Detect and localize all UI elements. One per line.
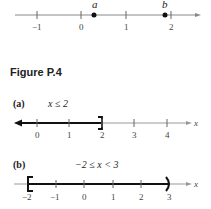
part-a-tag: (a) <box>13 98 25 110</box>
tick-label: 4 <box>165 130 170 140</box>
tick-label: 3 <box>132 130 137 140</box>
tick-label: 0 <box>35 130 40 140</box>
tick-label: 1 <box>67 130 72 140</box>
part-b-tag: (b) <box>13 159 25 171</box>
tick-label: 2 <box>169 22 174 32</box>
part-a-inequality: x ≤ 2 <box>47 98 68 109</box>
point-a <box>92 13 97 18</box>
tick-label: 2 <box>100 130 105 140</box>
part-b-inequality: −2 ≤ x < 3 <box>75 159 118 170</box>
tick-label: 1 <box>124 22 129 32</box>
point-a-label: a <box>92 0 98 10</box>
point-b <box>163 13 168 18</box>
tick-label: 1 <box>111 192 116 202</box>
tick-label: −1 <box>32 22 42 32</box>
tick-label: 0 <box>82 192 87 202</box>
tick-label: 3 <box>167 192 172 202</box>
tick-label: −2 <box>22 192 32 202</box>
axis-label-x: x <box>193 118 198 128</box>
tick-label: 0 <box>79 22 84 32</box>
point-b-label: b <box>162 0 168 10</box>
tick-label: −1 <box>50 192 60 202</box>
tick-label: 2 <box>139 192 144 202</box>
axis-label-x: x <box>193 179 198 189</box>
part-b-number-line <box>14 177 192 191</box>
part-a-number-line <box>14 117 192 129</box>
figure-canvas: a b −1 0 1 2 (a) x ≤ 2 x 0 1 2 3 4 (b) −… <box>0 0 211 209</box>
figure-label: Figure P.4 <box>10 66 62 78</box>
top-number-line <box>15 11 201 19</box>
